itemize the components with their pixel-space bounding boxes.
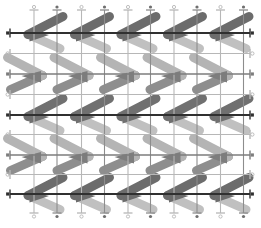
grid-line-marker [242,215,245,218]
grid-line-marker [251,31,254,34]
grid-line-marker [251,153,254,156]
grid-line-marker [195,215,198,218]
grid-line-marker [195,5,198,8]
grid-line-marker [149,5,152,8]
glyph-grid-figure [0,0,261,228]
grid-line-marker [251,192,254,195]
grid-line-marker [149,215,152,218]
grid-line-marker [251,113,254,116]
grid-line-marker [6,153,9,156]
grid-line-marker [251,72,254,75]
grid-line-marker [6,31,9,34]
grid-line-marker [6,72,9,75]
grid-line-marker [55,215,58,218]
grid-line-marker [6,113,9,116]
grid-line-marker [103,215,106,218]
figure-canvas [0,0,261,228]
grid-line-marker [103,5,106,8]
grid-line-marker [55,5,58,8]
grid-line-marker [6,192,9,195]
grid-line-marker [242,5,245,8]
